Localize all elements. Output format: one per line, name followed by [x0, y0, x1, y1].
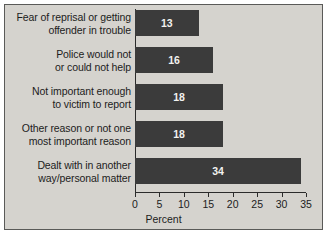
- bar[interactable]: [135, 47, 213, 73]
- bar[interactable]: [135, 84, 223, 110]
- x-tick-label: 20: [227, 198, 239, 210]
- category-label: Not important enough to victim to report: [3, 85, 135, 110]
- bar[interactable]: [135, 121, 223, 147]
- x-axis-title: Percent: [5, 213, 322, 225]
- x-tick-label: 30: [276, 198, 288, 210]
- x-tick-label: 5: [157, 198, 163, 210]
- x-tick-label: 15: [202, 198, 214, 210]
- x-tick-mark: [282, 193, 283, 197]
- x-tick-label: 10: [178, 198, 190, 210]
- x-tick-mark: [208, 193, 209, 197]
- x-tick-mark: [135, 193, 136, 197]
- chart-frame: Fear of reprisal or getting offender in …: [4, 4, 323, 230]
- x-tick-label: 35: [300, 198, 312, 210]
- x-axis-line: [135, 192, 306, 193]
- category-label: Other reason or not one most important r…: [3, 122, 135, 147]
- category-label: Fear of reprisal or getting offender in …: [3, 11, 135, 36]
- x-tick-label: 0: [132, 198, 138, 210]
- x-tick-mark: [306, 193, 307, 197]
- x-tick-label: 25: [251, 198, 263, 210]
- category-label: Police would not or could not help: [3, 48, 135, 73]
- x-tick-mark: [184, 193, 185, 197]
- category-label: Dealt with in another way/personal matte…: [3, 159, 135, 184]
- x-tick-mark: [159, 193, 160, 197]
- x-tick-mark: [233, 193, 234, 197]
- plot-area: Fear of reprisal or getting offender in …: [5, 5, 322, 229]
- bar[interactable]: [135, 158, 301, 184]
- x-tick-mark: [257, 193, 258, 197]
- bar[interactable]: [135, 10, 199, 36]
